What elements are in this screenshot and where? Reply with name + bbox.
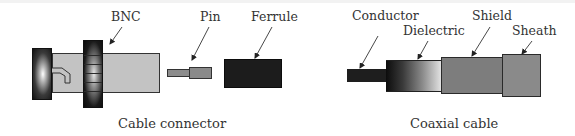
arrow-pin bbox=[192, 27, 209, 60]
arrows-overlay bbox=[0, 0, 575, 136]
arrow-conductor bbox=[360, 36, 378, 68]
arrow-bnc bbox=[110, 27, 122, 44]
bayonet-hook-icon bbox=[52, 68, 70, 83]
arrow-sheath bbox=[522, 41, 532, 54]
arrow-dielectric bbox=[418, 41, 428, 59]
arrow-ferrule bbox=[255, 27, 272, 58]
arrow-shield bbox=[472, 27, 490, 56]
